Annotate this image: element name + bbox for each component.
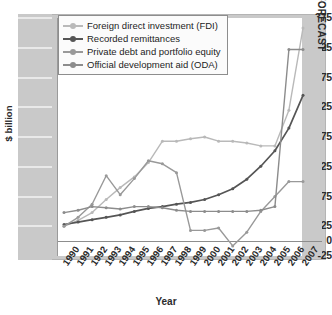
series-point [91,211,94,214]
series-point [63,225,66,228]
y-tick-mark [18,47,52,49]
y-tick-mark [18,106,52,108]
series-point [105,198,108,201]
series-point [119,208,122,211]
series-point [189,210,192,213]
series-point [77,221,80,224]
series-point [147,205,150,208]
series-point [217,210,220,213]
series-point [259,144,262,147]
y-tick-mark [18,225,52,227]
series-point [189,229,192,232]
series-point [203,210,206,213]
legend-item-private-debt: Private debt and portfolio equity [63,45,221,58]
series-point [287,48,290,51]
series-point [273,144,276,147]
series-point [217,227,220,230]
series-point [302,48,305,51]
series-point [77,209,80,212]
series-point [203,229,206,232]
y-tick-mark [18,166,52,168]
legend-line-icon [63,59,83,71]
series-point [189,201,192,204]
series-point [302,180,305,183]
series-point [175,203,178,206]
series-point [175,171,178,174]
legend-line-icon [63,20,83,32]
x-axis-title: Year [0,296,332,307]
series-point [161,162,164,165]
y-tick-mark [18,77,52,79]
series-point [231,140,234,143]
y-tick-mark [18,196,52,198]
series-point [287,109,290,112]
series-point [105,206,108,209]
chart-legend: Foreign direct investment (FDI) Recorded… [58,15,228,75]
series-point [287,127,290,130]
legend-item-remittances: Recorded remittances [63,32,221,45]
series-point [91,205,94,208]
series-point [273,205,276,208]
series-point [217,140,220,143]
legend-line-icon [63,33,83,45]
series-point [217,193,220,196]
chart-figure: $ billion 37532527522517512575250-25 FOR… [0,0,332,315]
series-point [91,218,94,221]
series-point [105,216,108,219]
series-point [231,210,234,213]
legend-item-oda: Official development aid (ODA) [63,58,221,71]
series-point [175,140,178,143]
series-point [245,210,248,213]
legend-label: Foreign direct investment (FDI) [87,21,218,31]
series-point [302,94,305,97]
series-point [231,187,234,190]
series-point [77,216,80,219]
series-point [119,213,122,216]
series-point [133,205,136,208]
legend-line-icon [63,46,83,58]
series-point [105,174,108,177]
series-point [119,186,122,189]
series-point [203,198,206,201]
series-point [133,177,136,180]
legend-item-fdi: Foreign direct investment (FDI) [63,19,221,32]
series-point [63,211,66,214]
y-axis-title: $ billion [3,94,14,154]
legend-label: Recorded remittances [87,34,180,44]
series-point [189,137,192,140]
series-point [161,206,164,209]
legend-label: Private debt and portfolio equity [87,47,221,57]
series-point [273,149,276,152]
series-point [245,231,248,234]
series-point [119,193,122,196]
series-line [64,161,303,246]
legend-label: Official development aid (ODA) [87,60,218,70]
series-point [161,140,164,143]
series-point [203,136,206,139]
series-point [245,142,248,145]
series-point [259,165,262,168]
forecast-label: FORECAST [316,0,327,61]
series-point [133,210,136,213]
series-point [147,159,150,162]
series-point [302,27,305,30]
series-point [287,180,290,183]
series-point [245,178,248,181]
series-point [175,209,178,212]
series-point [259,209,262,212]
y-tick-mark [18,136,52,138]
y-tick-mark [18,17,52,19]
